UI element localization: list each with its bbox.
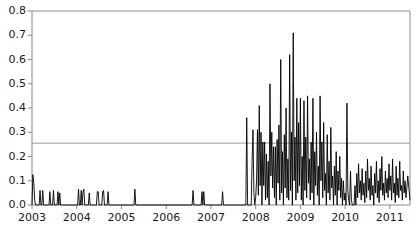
x-axis-tick-label: 2003 [12, 211, 52, 224]
x-axis-tick-label: 2011 [370, 211, 410, 224]
x-axis-tick-label: 2009 [280, 211, 320, 224]
y-axis-tick-label: 0.8 [2, 4, 26, 17]
x-axis-tick-label: 2010 [325, 211, 365, 224]
data-series-group [32, 33, 410, 205]
y-axis-tick-label: 0.1 [2, 174, 26, 187]
y-axis-tick-label: 0.0 [2, 198, 26, 211]
chart-container: 0.00.10.20.30.40.50.60.70.8 200320042005… [0, 0, 416, 237]
series-line-series-1 [32, 33, 410, 205]
x-axis-tick-label: 2004 [57, 211, 97, 224]
plot-frame [32, 11, 410, 205]
x-axis-tick-label: 2007 [191, 211, 231, 224]
y-axis-tick-label: 0.2 [2, 150, 26, 163]
y-axis-tick-label: 0.5 [2, 77, 26, 90]
y-axis-tick-label: 0.4 [2, 101, 26, 114]
x-axis-ticks [32, 205, 390, 209]
x-axis-tick-label: 2008 [236, 211, 276, 224]
y-axis-tick-label: 0.7 [2, 28, 26, 41]
x-axis-tick-label: 2006 [146, 211, 186, 224]
chart-plot-area [0, 0, 416, 237]
y-axis-tick-label: 0.6 [2, 53, 26, 66]
y-axis-tick-label: 0.3 [2, 125, 26, 138]
y-axis-ticks [28, 11, 32, 205]
x-axis-tick-label: 2005 [101, 211, 141, 224]
